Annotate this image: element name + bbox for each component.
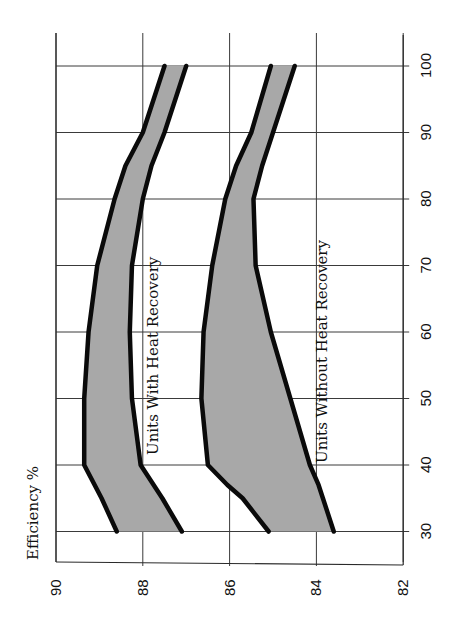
load-tick-100: 100: [417, 53, 434, 78]
load-tick-30: 30: [417, 523, 434, 540]
efficiency-axis-title: Efficiency %: [24, 466, 42, 560]
load-tick-80: 80: [417, 190, 434, 207]
load-tick-40: 40: [417, 456, 434, 473]
band-fill-with-heat-recovery: [84, 66, 186, 532]
load-tick-50: 50: [417, 390, 434, 407]
efficiency-tick-84: 84: [307, 579, 324, 596]
efficiency-bands: [84, 66, 334, 532]
band-label-with-heat-recovery: Units With Heat Recovery: [144, 256, 162, 455]
band-label-without-heat-recovery: Units Without Heat Recovery: [313, 239, 331, 463]
load-tick-90: 90: [417, 124, 434, 141]
efficiency-tick-88: 88: [134, 579, 151, 596]
load-tick-60: 60: [417, 323, 434, 340]
load-tick-70: 70: [417, 257, 434, 274]
efficiency-chart: 908886848230405060708090100 Efficiency %…: [0, 0, 455, 626]
efficiency-tick-90: 90: [47, 579, 64, 596]
efficiency-tick-82: 82: [394, 579, 411, 596]
efficiency-tick-86: 86: [221, 579, 238, 596]
